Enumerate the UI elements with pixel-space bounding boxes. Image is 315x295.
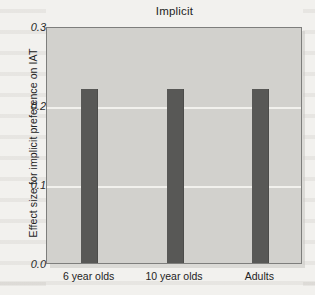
bar-adults [252,89,269,263]
y-axis-tick-0.1: 0.1 [20,179,46,191]
y-axis-tick-0.2: 0.2 [20,100,46,112]
y-axis-tick-0.3: 0.3 [20,21,46,33]
x-axis-label-2: Adults [245,270,274,282]
x-axis-label-0: 6 year olds [63,270,114,282]
x-axis-label-1: 10 year olds [145,270,202,282]
y-axis-tick-0.0: 0.0 [20,258,46,270]
chart-title: Implicit [46,5,303,17]
bar-10-year-olds [167,89,184,263]
bars [47,28,301,263]
bar-6-year-olds [81,89,98,263]
bar-chart: Implicit Effect size for implicit prefer… [0,0,315,295]
y-axis-tick-labels: 0.00.10.20.3 [20,20,46,272]
x-axis-category-labels: 6 year olds10 year oldsAdults [46,270,302,290]
plot-area [46,27,302,264]
